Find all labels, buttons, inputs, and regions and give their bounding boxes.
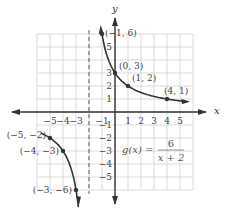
svg-text:4: 4 (164, 116, 170, 126)
svg-text:5: 5 (177, 116, 183, 126)
equation-denominator: x + 2 (158, 152, 185, 163)
data-point (165, 97, 169, 101)
x-axis-label: x (214, 105, 220, 116)
svg-text:−5: −5 (43, 116, 57, 126)
data-point (48, 136, 52, 140)
point-label: (1, 2) (132, 73, 156, 83)
svg-text:−2: −2 (99, 133, 112, 143)
function-equation: g(x) = 6 x + 2 (122, 138, 184, 163)
y-axis-label: y (111, 3, 118, 14)
svg-text:−5: −5 (99, 172, 113, 182)
svg-text:−1: −1 (99, 120, 112, 130)
point-label: (−4, −3) (20, 146, 59, 156)
equation-numerator: 6 (168, 138, 174, 149)
point-label: (−1, 6) (105, 28, 137, 38)
point-label: (−3, −6) (33, 185, 72, 195)
svg-text:−3: −3 (99, 146, 113, 156)
point-label: (0, 3) (119, 61, 143, 71)
svg-text:−4: −4 (56, 116, 70, 126)
data-point (126, 84, 130, 88)
svg-text:5: 5 (106, 42, 112, 52)
graph-plot: −5−4−3−1123455321−1−2−3−4−5 (−1, 6)(0, 3… (0, 0, 228, 212)
equation-lhs: g(x) = (122, 144, 153, 155)
point-label: (−5, −2) (7, 130, 46, 140)
data-point (100, 32, 104, 36)
svg-text:1: 1 (125, 116, 131, 126)
data-point (113, 71, 117, 75)
svg-text:1: 1 (106, 94, 112, 104)
point-label: (4, 1) (164, 86, 188, 96)
curve-left-branch (41, 133, 78, 207)
svg-text:−3: −3 (69, 116, 83, 126)
svg-text:2: 2 (106, 81, 112, 91)
svg-text:−4: −4 (99, 159, 113, 169)
svg-text:3: 3 (106, 68, 112, 78)
data-point (74, 188, 78, 192)
svg-text:2: 2 (138, 116, 144, 126)
data-point (61, 149, 65, 153)
svg-text:3: 3 (151, 116, 157, 126)
